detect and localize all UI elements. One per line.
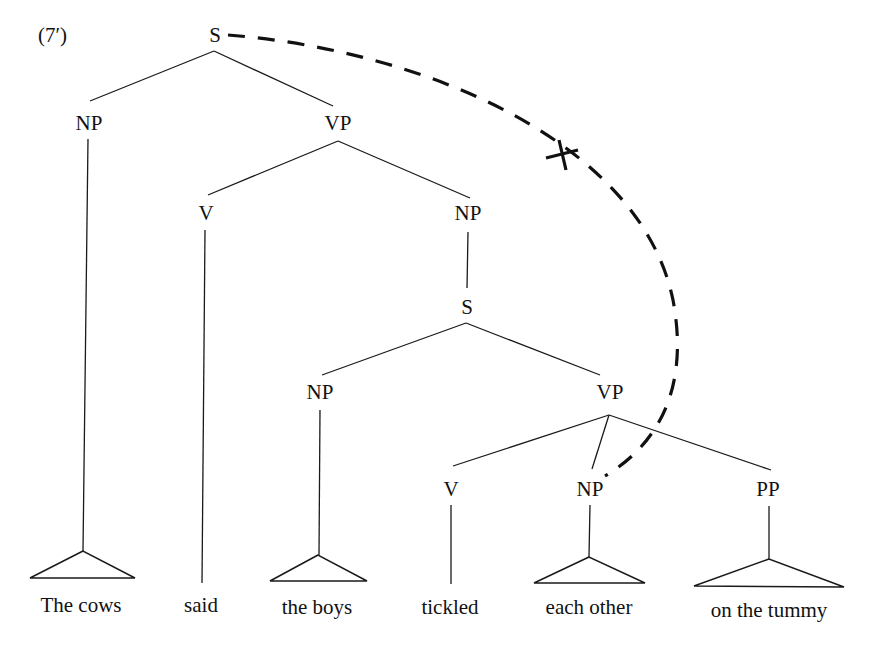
triangle-the-boys	[270, 555, 367, 581]
node-v-embedded: V	[443, 477, 458, 501]
node-s-embedded: S	[461, 295, 473, 319]
word-each-other: each other	[546, 595, 633, 619]
example-number: (7′)	[38, 23, 67, 47]
node-np-object: NP	[577, 477, 604, 501]
word-tickled: tickled	[421, 595, 479, 619]
word-the-cows: The cows	[40, 593, 121, 617]
node-np-embedded-subject: NP	[307, 380, 334, 404]
word-on-the-tummy: on the tummy	[711, 598, 828, 622]
binding-arc-dashed	[228, 35, 677, 476]
node-pp-adjunct: PP	[756, 477, 779, 501]
node-vp-embedded: VP	[597, 380, 624, 404]
node-np-subject: NP	[76, 111, 103, 135]
node-np-complement: NP	[455, 201, 482, 225]
word-said: said	[184, 593, 218, 617]
node-v-main: V	[198, 201, 213, 225]
triangle-the-cows	[30, 551, 135, 578]
node-s-root: S	[209, 23, 221, 47]
node-vp-main: VP	[325, 111, 352, 135]
word-the-boys: the boys	[282, 595, 353, 619]
triangle-each-other	[534, 557, 645, 583]
triangle-on-the-tummy	[694, 559, 844, 587]
syntax-tree-diagram: (7′) S NP VP V NP S NP VP V NP PP	[0, 0, 878, 650]
tree-edges	[83, 51, 771, 584]
